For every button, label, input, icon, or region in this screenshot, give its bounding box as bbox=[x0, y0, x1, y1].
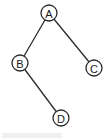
node-label: C bbox=[90, 63, 98, 75]
node-b: B bbox=[12, 55, 28, 71]
edge-a-c bbox=[49, 13, 94, 68]
tree-diagram: ABCD bbox=[0, 0, 109, 140]
node-label: A bbox=[45, 8, 53, 20]
node-a: A bbox=[41, 5, 57, 21]
node-label: D bbox=[57, 113, 65, 125]
node-d: D bbox=[53, 110, 69, 126]
cropped-caption bbox=[2, 133, 62, 138]
node-label: B bbox=[16, 58, 23, 70]
node-c: C bbox=[86, 60, 102, 76]
edges-group bbox=[20, 13, 94, 118]
edge-a-b bbox=[20, 13, 49, 63]
edge-b-d bbox=[20, 63, 61, 118]
